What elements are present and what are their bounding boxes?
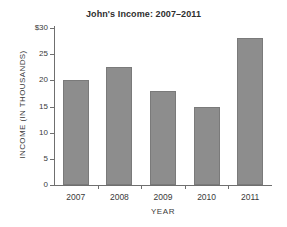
x-axis-title: YEAR: [54, 207, 272, 216]
bar: [63, 80, 89, 185]
x-axis-tick: [141, 185, 142, 189]
bar: [150, 91, 176, 185]
chart-title: John's Income: 2007–2011: [0, 9, 287, 19]
y-axis-tick: [50, 185, 55, 186]
x-axis-tick-label: 2008: [98, 192, 142, 202]
bar-chart-figure: John's Income: 2007–2011 0510152025$30 2…: [0, 0, 287, 227]
bar: [237, 38, 263, 185]
x-axis-tick: [185, 185, 186, 189]
bar: [106, 67, 132, 185]
x-axis-line: [54, 185, 272, 186]
x-axis-tick: [228, 185, 229, 189]
y-axis-title: INCOME (IN THOUSANDS): [18, 25, 27, 185]
x-axis-tick: [98, 185, 99, 189]
x-axis-tick-label: 2009: [141, 192, 185, 202]
plot-area: [54, 28, 272, 185]
x-axis-tick-label: 2011: [228, 192, 272, 202]
x-axis-tick-label: 2010: [185, 192, 229, 202]
x-axis-tick-label: 2007: [54, 192, 98, 202]
bar: [194, 107, 220, 186]
